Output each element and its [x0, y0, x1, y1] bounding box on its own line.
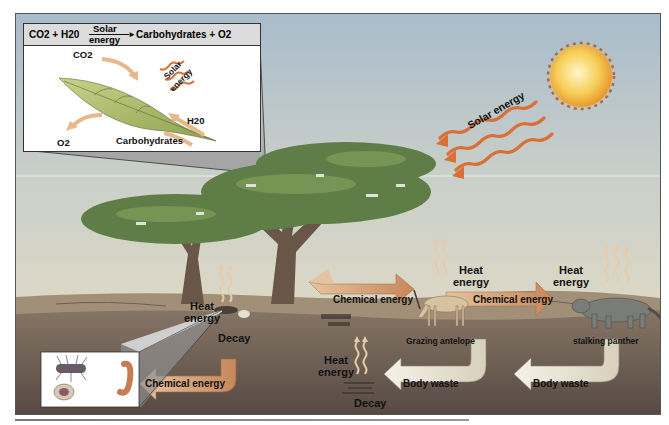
heat-energy-label-antelope: Heatenergy	[453, 264, 489, 288]
panther-label: stalking panther	[573, 336, 639, 346]
body-waste-label-panther: Body waste	[533, 378, 589, 389]
photosynthesis-equation: CO2 + H20 Solar energy ► Carbohydrates +…	[24, 24, 260, 46]
equation-arrow-bottom: energy	[89, 34, 120, 45]
decay-label-soil: Decay	[354, 397, 386, 409]
equation-arrow-head: ►	[128, 30, 136, 39]
o2-label: O2	[57, 137, 70, 148]
caption-divider	[15, 419, 469, 421]
chemical-energy-label-antelope-panther: Chemical energy	[473, 294, 553, 305]
body-waste-label-antelope: Body waste	[403, 378, 459, 389]
carbohydrates-label: Carbohydrates	[116, 135, 183, 146]
co2-label: CO2	[73, 49, 93, 60]
equation-arrow-top: Solar	[93, 23, 117, 34]
antelope-label: Grazing antelope	[406, 336, 475, 346]
equation-products: Carbohydrates + O2	[136, 29, 231, 40]
heat-energy-label-soil: Heatenergy	[318, 354, 354, 378]
heat-energy-label-panther: Heatenergy	[553, 264, 589, 288]
chemical-energy-label-tree-antelope: Chemical energy	[333, 294, 413, 305]
heat-energy-label-tree: Heatenergy	[184, 300, 220, 324]
decay-label-tree: Decay	[218, 332, 250, 344]
chemical-energy-label-decomposers: Chemical energy	[145, 378, 225, 389]
h2o-label: H20	[187, 115, 204, 126]
equation-reactants: CO2 + H20	[29, 29, 79, 40]
ecosystem-diagram: CO2 + H20 Solar energy ► Carbohydrates +…	[15, 13, 661, 415]
photosynthesis-inset: CO2 + H20 Solar energy ► Carbohydrates +…	[23, 23, 261, 152]
